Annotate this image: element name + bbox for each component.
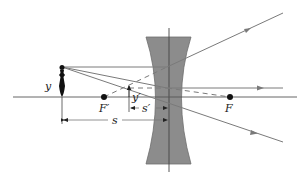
diverging-lens xyxy=(146,37,191,164)
label-front-focal: F′ xyxy=(98,102,110,115)
label-object-height: y xyxy=(44,80,52,93)
label-object-distance: s xyxy=(112,114,118,127)
label-image-distance: s′ xyxy=(142,102,151,115)
ray-arrow-icon xyxy=(257,86,264,91)
dim-arrow-icon xyxy=(130,106,135,110)
focal-point-front xyxy=(101,94,107,100)
dim-arrow-icon xyxy=(63,118,68,122)
label-back-focal: F xyxy=(224,102,233,115)
focal-point-back xyxy=(227,94,233,100)
label-image-height: y′ xyxy=(131,91,141,104)
ray-arrow-icon xyxy=(244,28,251,33)
lens-ray-diagram: y y′ F′ F s s′ xyxy=(0,0,299,179)
ray-arrow-icon xyxy=(250,130,258,135)
object-figure xyxy=(59,65,65,97)
